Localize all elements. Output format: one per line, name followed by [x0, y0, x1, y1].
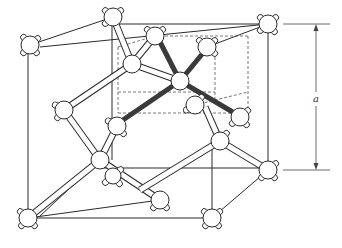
atom	[91, 151, 109, 169]
atom	[200, 207, 224, 230]
diamond-crystal-structure-diagram: a	[0, 0, 342, 248]
atom	[104, 117, 127, 138]
arrow-up-icon	[314, 24, 319, 31]
arrow-down-icon	[314, 163, 319, 170]
lattice-constant-dimension: a	[283, 24, 330, 170]
dimension-label: a	[313, 93, 319, 104]
atom	[182, 93, 205, 114]
atom	[256, 13, 280, 36]
atom	[149, 191, 170, 212]
atom	[19, 33, 42, 57]
atom	[101, 165, 125, 188]
atom	[123, 55, 141, 73]
atom-tetra-center	[171, 72, 189, 90]
